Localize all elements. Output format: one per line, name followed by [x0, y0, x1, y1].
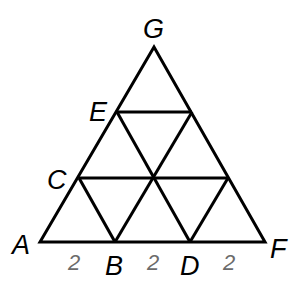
label-E: E	[89, 97, 108, 127]
triangle-diagram: G E C A B D F 2 2 2	[0, 0, 305, 291]
label-C: C	[47, 165, 67, 195]
segment-C-to-B	[79, 178, 115, 242]
label-G: G	[143, 14, 164, 44]
length-BD: 2	[146, 250, 159, 275]
label-B: B	[105, 251, 123, 281]
label-F: F	[270, 234, 288, 264]
label-A: A	[10, 230, 30, 260]
outer-triangle-AGF	[40, 47, 265, 242]
length-AB: 2	[67, 250, 80, 275]
label-D: D	[180, 251, 200, 281]
segment-D-up	[190, 178, 228, 242]
length-DF: 2	[222, 250, 235, 275]
